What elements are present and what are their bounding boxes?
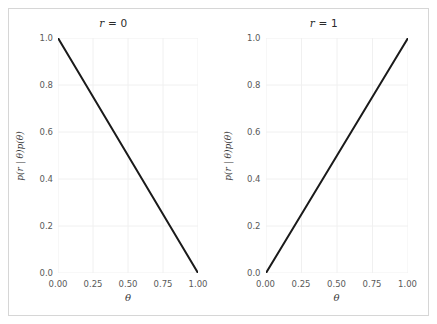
ytick-label-r1-4: 0.8 [247, 80, 261, 90]
xtick-label-r0-0: 0.00 [49, 279, 68, 289]
subplot-panel-r0: r = 0 [8, 8, 219, 316]
ytick-label-r0-4: 0.8 [39, 80, 53, 90]
y-axis-label-text-r0: p(r | θ)p(θ) [15, 131, 25, 180]
plot-canvas-r1 [266, 38, 408, 273]
xtick-label-r0-1: 0.25 [84, 279, 103, 289]
ytick-label-r0-0: 0.0 [39, 268, 53, 278]
xtick-label-r0-3: 0.75 [154, 279, 173, 289]
ytick-label-r0-2: 0.4 [39, 174, 53, 184]
plot-area-r1: 0.0 0.2 0.4 0.6 0.8 1.0 0.00 0.25 0.50 0… [266, 38, 408, 273]
y-axis-label-text-r1: p(r | θ)p(θ) [223, 131, 233, 180]
panel-title-equals-r0: = [104, 17, 120, 29]
ytick-label-r0-5: 1.0 [39, 33, 53, 43]
ytick-label-r1-0: 0.0 [247, 268, 261, 278]
panel-title-r1: r = 1 [219, 17, 430, 29]
ytick-label-r0-3: 0.6 [39, 127, 53, 137]
ytick-label-r0-1: 0.2 [39, 221, 53, 231]
ytick-label-r1-2: 0.4 [247, 174, 261, 184]
xtick-label-r1-0: 0.00 [256, 279, 275, 289]
x-axis-label-r0: θ [58, 292, 198, 303]
xtick-label-r0-2: 0.50 [119, 279, 138, 289]
panel-title-value-r0: 0 [120, 17, 127, 29]
plot-area-r0: 0.0 0.2 0.4 0.6 0.8 1.0 0.00 0.25 0.50 0… [58, 38, 198, 273]
panel-title-equals-r1: = [315, 17, 331, 29]
plot-canvas-r0 [58, 38, 198, 273]
figure: r = 0 [0, 0, 437, 324]
xtick-label-r1-1: 0.25 [292, 279, 311, 289]
panel-title-value-r1: 1 [331, 17, 338, 29]
xtick-label-r1-3: 0.75 [363, 279, 382, 289]
ytick-label-r1-3: 0.6 [247, 127, 261, 137]
panel-title-r0: r = 0 [8, 17, 219, 29]
ytick-label-r1-1: 0.2 [247, 221, 261, 231]
xtick-label-r1-4: 1.00 [398, 279, 417, 289]
subplot-panel-r1: r = 1 [219, 8, 430, 316]
panel-container: r = 0 [8, 8, 429, 316]
xtick-label-r0-4: 1.00 [189, 279, 208, 289]
xtick-label-r1-2: 0.50 [327, 279, 346, 289]
x-axis-label-r1: θ [266, 292, 408, 303]
ytick-label-r1-5: 1.0 [247, 33, 261, 43]
